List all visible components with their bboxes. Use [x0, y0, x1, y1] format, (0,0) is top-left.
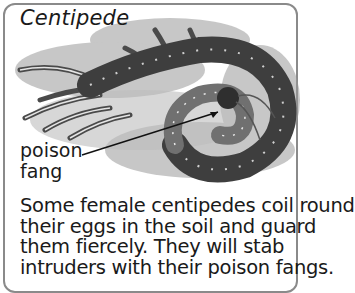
- caption-line: their eggs in the soil and guard: [20, 217, 305, 238]
- caption-line: intruders with their poison fangs.: [20, 258, 305, 279]
- label-poison: poison: [20, 140, 83, 160]
- caption-line: Some female centipedes coil round: [20, 196, 305, 217]
- caption-line: them fiercely. They will stab: [20, 237, 305, 258]
- label-fang: fang: [20, 161, 62, 181]
- card-title: Centipede: [20, 6, 129, 30]
- caption-text: Some female centipedes coil round their …: [20, 196, 305, 278]
